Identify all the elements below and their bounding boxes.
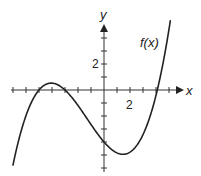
x-axis-label: x bbox=[185, 83, 193, 98]
y-axis-label: y bbox=[99, 7, 108, 22]
y-axis-arrow-icon bbox=[100, 24, 108, 32]
x-tick-label-2: 2 bbox=[126, 98, 133, 112]
function-graph: x y f(x) 2 2 bbox=[0, 0, 201, 176]
curve-label: f(x) bbox=[140, 35, 159, 50]
y-axis bbox=[100, 24, 108, 172]
x-axis-arrow-icon bbox=[176, 86, 184, 94]
y-tick-label-2: 2 bbox=[92, 57, 99, 71]
